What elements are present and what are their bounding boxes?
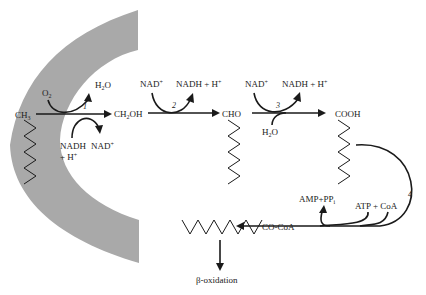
step3-h2o-curve <box>272 113 286 125</box>
nad-label-step3: NAD+ <box>245 79 269 89</box>
atp-coa-label: ATP + CoA <box>355 201 398 211</box>
step1-arrowhead <box>104 110 112 118</box>
step4-arrow <box>242 145 412 226</box>
fatty-chain-cho <box>228 120 240 184</box>
nad-label-step1: NAD+ <box>91 141 115 151</box>
step3-number: 3 <box>275 101 280 110</box>
nadh-label-step3: NADH + H+ <box>282 79 328 89</box>
cho-label: CHO <box>222 109 242 119</box>
step2-number: 2 <box>172 101 176 110</box>
fatty-chain-cooh <box>338 120 350 184</box>
h-plus-label-step1: + H+ <box>60 152 78 162</box>
beta-oxidation-label: β-oxidation <box>196 275 238 285</box>
step1-nad-arrowhead <box>95 125 103 134</box>
ch2oh-label: CH2OH <box>114 109 143 120</box>
co-coa-label: CO-CoA <box>262 222 295 232</box>
step2-arrowhead <box>212 109 220 117</box>
amp-ppi-label: AMP+PPi <box>299 194 336 205</box>
step1-h2o-arrowhead <box>84 93 92 102</box>
nadh-label-step2: NADH + H+ <box>176 79 222 89</box>
step1-number: 1 <box>83 102 87 111</box>
step4-amp-curve <box>321 212 330 226</box>
step4-atp-curve-1 <box>320 212 368 226</box>
step3-arrowhead <box>318 109 326 117</box>
h2o-label-step3: H2O <box>262 127 279 138</box>
step2-nadh-arrowhead <box>186 93 194 103</box>
fatty-chain-acyl-coa <box>182 220 262 234</box>
step1-nadh-curve <box>72 118 98 138</box>
step2-nad-curve <box>152 93 190 113</box>
nadh-label-step1: NADH <box>60 141 86 151</box>
h2o-label-step1: H2O <box>95 80 112 91</box>
step4-amp-arrowhead <box>319 205 327 213</box>
membrane-band <box>10 10 139 263</box>
step3-nadh-arrowhead <box>293 92 301 102</box>
beta-oxidation-arrowhead <box>216 263 224 271</box>
nad-label-step2: NAD+ <box>140 79 164 89</box>
cooh-label: COOH <box>335 109 361 119</box>
omega-oxidation-diagram: CH3 1 O2 H2O NADH + H+ NAD+ CH2OH 2 NAD+… <box>0 0 426 295</box>
step4-number: 4 <box>408 190 412 199</box>
